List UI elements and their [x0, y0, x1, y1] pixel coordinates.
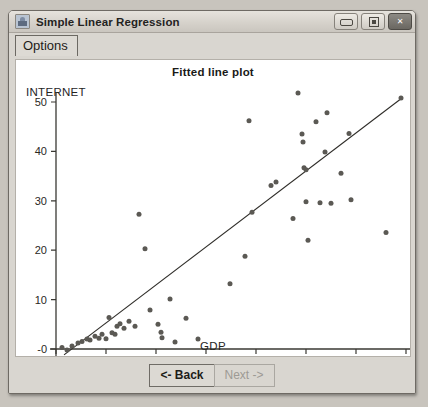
- close-icon: ✕: [397, 18, 404, 26]
- minimize-button[interactable]: [334, 13, 358, 30]
- svg-text:10: 10: [35, 294, 47, 306]
- data-points: [60, 91, 404, 353]
- maximize-icon: [369, 17, 379, 27]
- axes: [50, 92, 410, 356]
- next-button: Next ->: [214, 364, 275, 387]
- x-axis-label: GDP: [16, 340, 410, 352]
- fitted-regression-line: [64, 98, 402, 355]
- menu-bar: Options: [9, 33, 415, 59]
- window-title: Simple Linear Regression: [36, 16, 331, 28]
- screen: Simple Linear Regression ✕ Options Fitte…: [0, 0, 428, 407]
- svg-text:20: 20: [35, 244, 47, 256]
- back-button[interactable]: <- Back: [149, 364, 213, 387]
- svg-text:40: 40: [35, 145, 47, 157]
- app-icon: [15, 14, 30, 29]
- svg-text:50: 50: [35, 96, 47, 108]
- application-window: Simple Linear Regression ✕ Options Fitte…: [8, 10, 416, 394]
- svg-text:30: 30: [35, 195, 47, 207]
- wizard-footer: <- Back Next ->: [9, 357, 415, 393]
- minimize-icon: [340, 19, 353, 26]
- options-menu-button[interactable]: Options: [15, 35, 78, 56]
- scatter-plot: 05101520253035-01020304050: [16, 60, 410, 356]
- plot-panel: Fitted line plot INTERNET 05101520253035…: [15, 59, 411, 357]
- title-bar: Simple Linear Regression ✕: [9, 11, 415, 33]
- maximize-button[interactable]: [361, 13, 385, 30]
- close-button[interactable]: ✕: [388, 13, 412, 30]
